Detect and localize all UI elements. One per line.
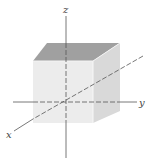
x-axis-label: x — [6, 129, 12, 140]
x-axis — [14, 119, 33, 131]
z-axis-label: z — [62, 4, 69, 15]
cube-axes-diagram: z y x — [0, 0, 154, 165]
y-axis-label: y — [138, 97, 145, 108]
